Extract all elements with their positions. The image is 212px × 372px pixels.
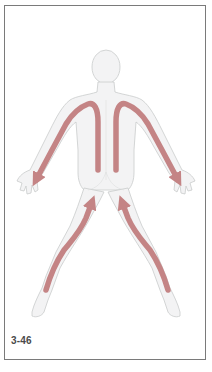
head [92, 50, 120, 84]
right-leg [108, 188, 180, 317]
left-leg [32, 188, 104, 317]
body-silhouette [17, 50, 195, 317]
body-illustration [0, 0, 212, 372]
right-leg-arrow [122, 202, 168, 290]
left-leg-arrow [46, 202, 92, 290]
figure-number-label: 3-46 [11, 335, 32, 346]
